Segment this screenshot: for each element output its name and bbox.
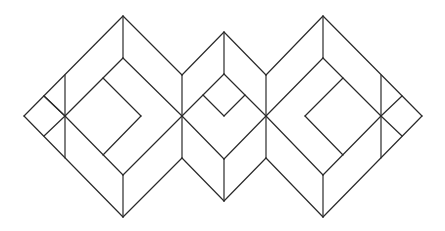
line-segment <box>305 78 343 116</box>
line-segment <box>381 96 402 116</box>
line-segment <box>44 96 65 116</box>
line-segment <box>24 16 123 116</box>
line-segment <box>323 58 381 116</box>
line-segment <box>182 116 224 159</box>
line-segment <box>182 32 224 75</box>
line-segment <box>323 16 422 116</box>
line-segment <box>203 95 224 116</box>
line-segment <box>305 116 343 155</box>
line-segment <box>224 32 266 75</box>
line-segment <box>224 95 245 116</box>
line-segment <box>65 58 123 116</box>
line-segment <box>44 116 65 136</box>
line-segment <box>224 158 266 201</box>
line-segment <box>103 116 141 155</box>
line-segment <box>24 116 123 217</box>
line-segment <box>381 116 402 136</box>
pattern-lines <box>24 16 422 217</box>
line-segment <box>182 158 224 201</box>
geometric-diamond-pattern <box>0 0 445 231</box>
line-segment <box>103 78 141 116</box>
line-segment <box>224 116 266 159</box>
line-segment <box>323 116 422 217</box>
